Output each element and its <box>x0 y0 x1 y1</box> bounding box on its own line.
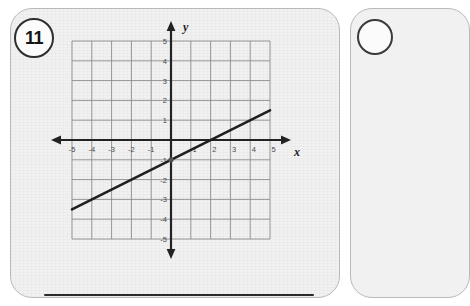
y-tick-label: 5 <box>163 37 167 46</box>
y-tick-label: 4 <box>163 57 167 66</box>
y-axis-label: y <box>181 20 189 34</box>
y-tick-label: 1 <box>163 116 167 125</box>
x-axis-right-arrow <box>281 136 291 145</box>
problem-card: 11 <box>10 8 340 298</box>
x-axis-label: x <box>293 145 300 159</box>
y-intercept-point <box>168 157 173 162</box>
y-tick-label: -5 <box>160 235 167 244</box>
coordinate-graph: y x -5 -4 -3 -2 -1 1 2 3 4 5 5 4 3 2 <box>11 9 341 269</box>
problem-number-badge: 11 <box>14 18 54 58</box>
y-tick-label: -3 <box>160 195 167 204</box>
x-tick-label: -2 <box>128 145 135 154</box>
y-tick-label: 3 <box>163 77 167 86</box>
x-tick-label: 3 <box>232 145 236 154</box>
answer-blank-line <box>44 294 314 296</box>
x-tick-label: -1 <box>148 145 155 154</box>
x-tick-label: 2 <box>212 145 216 154</box>
x-tick-label: 4 <box>252 145 256 154</box>
y-tick-label: -2 <box>160 176 167 185</box>
y-tick-label: 2 <box>163 96 167 105</box>
x-axis-left-arrow <box>51 136 61 145</box>
y-axis-down-arrow <box>167 249 176 259</box>
y-axis-up-arrow <box>167 21 176 31</box>
y-tick-label: -4 <box>160 215 167 224</box>
x-tick-label: 5 <box>272 145 276 154</box>
x-tick-label: -3 <box>108 145 115 154</box>
x-tick-label: -4 <box>88 145 95 154</box>
x-tick-label: -5 <box>69 145 76 154</box>
next-problem-number-badge <box>357 19 393 55</box>
x-tick-labels: -5 -4 -3 -2 -1 1 2 3 4 5 <box>69 145 276 154</box>
next-problem-card <box>350 8 470 298</box>
